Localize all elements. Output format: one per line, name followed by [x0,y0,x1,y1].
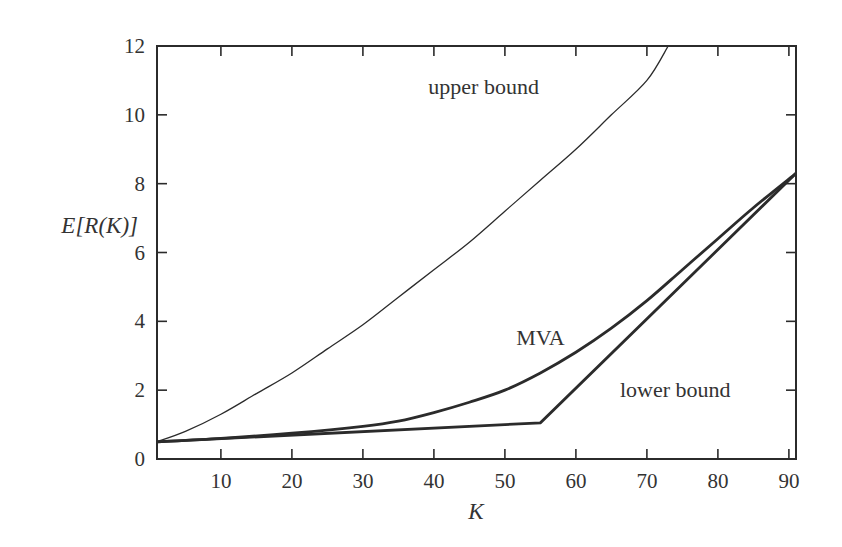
x-tick-label: 90 [778,469,799,493]
y-axis-label: E[R(K)] [60,213,138,238]
lower-bound-annotation: lower bound [620,377,731,402]
x-tick-label: 60 [565,469,586,493]
upper-bound-annotation: upper bound [428,74,539,99]
y-tick-label: 4 [135,309,146,333]
x-tick-label: 50 [494,469,515,493]
x-tick-label: 70 [636,469,657,493]
y-tick-label: 6 [135,241,146,265]
x-tick-label: 20 [281,469,302,493]
x-tick-label: 10 [210,469,231,493]
y-tick-label: 0 [135,447,146,471]
y-tick-label: 10 [124,103,145,127]
mva-annotation: MVA [516,325,565,350]
x-tick-label: 40 [423,469,444,493]
x-axis-label: K [467,499,485,524]
y-tick-label: 12 [124,34,145,58]
x-tick-label: 80 [707,469,728,493]
y-tick-label: 8 [135,172,146,196]
y-tick-label: 2 [135,378,146,402]
upper-bound-curve [157,46,668,442]
x-tick-label: 30 [352,469,373,493]
line-chart: 102030405060708090 024681012 upper bound… [0,0,842,547]
